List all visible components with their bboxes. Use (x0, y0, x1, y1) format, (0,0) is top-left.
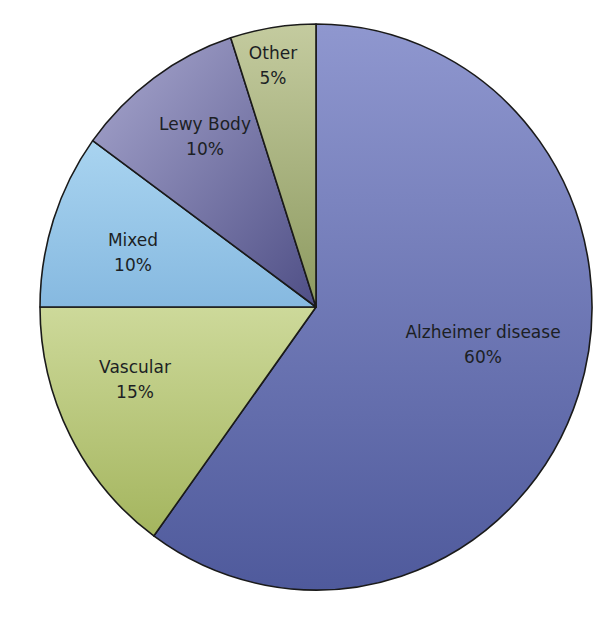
slice-label-percent: 60% (405, 345, 560, 370)
slice-label-name: Other (249, 41, 297, 66)
slice-label-percent: 10% (108, 253, 158, 278)
slice-label-name: Mixed (108, 228, 158, 253)
slice-label-name: Lewy Body (159, 112, 251, 137)
slice-label-percent: 5% (249, 66, 297, 91)
slice-label-percent: 15% (99, 380, 171, 405)
slice-label-percent: 10% (159, 137, 251, 162)
slice-label: Lewy Body10% (159, 112, 251, 162)
slice-label: Other5% (249, 41, 297, 91)
slice-label-name: Vascular (99, 355, 171, 380)
slice-label-name: Alzheimer disease (405, 320, 560, 345)
pie-chart (0, 0, 616, 623)
slice-label: Alzheimer disease60% (405, 320, 560, 370)
slice-label: Mixed10% (108, 228, 158, 278)
slice-label: Vascular15% (99, 355, 171, 405)
